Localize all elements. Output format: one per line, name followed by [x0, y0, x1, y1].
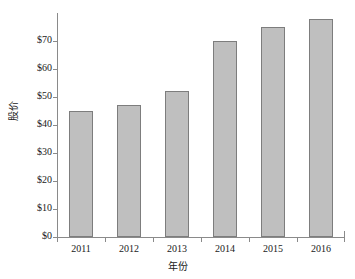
x-axis-title: 年份	[0, 258, 355, 273]
y-tick: $30	[57, 153, 62, 154]
bar-chart: 股价 $0$10$20$30$40$50$60$70 2011201220132…	[0, 0, 355, 279]
y-tick-mark	[53, 181, 58, 182]
bar	[261, 27, 286, 237]
bar	[165, 91, 190, 237]
x-tick-mark	[57, 237, 58, 242]
bar	[69, 111, 94, 237]
y-tick: $10	[57, 209, 62, 210]
y-tick-label: $50	[37, 90, 52, 101]
bar	[117, 105, 142, 237]
x-tick-label: 2014	[201, 243, 249, 254]
x-tick-label: 2011	[57, 243, 105, 254]
bar	[309, 19, 334, 237]
y-tick-mark	[53, 97, 58, 98]
x-tick-mark	[201, 237, 202, 242]
y-tick-label: $0	[42, 230, 52, 241]
y-tick-label: $60	[37, 62, 52, 73]
x-tick-label: 2016	[297, 243, 345, 254]
y-tick: $50	[57, 97, 62, 98]
x-tick-mark	[153, 237, 154, 242]
x-tick-mark	[249, 237, 250, 242]
y-tick-mark	[53, 41, 58, 42]
y-tick-label: $40	[37, 118, 52, 129]
y-tick-mark	[53, 125, 58, 126]
x-tick-label: 2012	[105, 243, 153, 254]
y-tick-mark	[53, 209, 58, 210]
y-tick-label: $10	[37, 202, 52, 213]
y-tick-label: $70	[37, 34, 52, 45]
y-tick-label: $20	[37, 174, 52, 185]
y-tick-mark	[53, 69, 58, 70]
y-axis-title: 股价	[5, 81, 20, 141]
x-tick-mark	[105, 237, 106, 242]
x-tick-mark	[297, 237, 298, 242]
y-tick: $70	[57, 41, 62, 42]
x-tick-mark	[344, 237, 345, 242]
x-tick-label: 2015	[249, 243, 297, 254]
bar	[213, 41, 238, 237]
x-tick-label: 2013	[153, 243, 201, 254]
y-tick-label: $30	[37, 146, 52, 157]
y-tick: $20	[57, 181, 62, 182]
plot-area: $0$10$20$30$40$50$60$70 2011201220132014…	[57, 13, 345, 238]
y-tick: $40	[57, 125, 62, 126]
y-tick: $60	[57, 69, 62, 70]
y-tick-mark	[53, 153, 58, 154]
